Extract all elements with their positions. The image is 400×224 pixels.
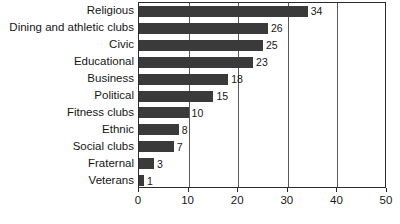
bar	[139, 57, 253, 68]
x-tick-label: 20	[231, 194, 244, 206]
bar	[139, 175, 144, 186]
category-label: Fitness clubs	[0, 107, 134, 118]
bar-value-label: 7	[177, 142, 183, 153]
category-label: Business	[0, 73, 134, 84]
bar	[139, 23, 268, 34]
x-tick-label: 0	[135, 194, 141, 206]
bar	[139, 124, 179, 135]
x-tick-label: 10	[181, 194, 194, 206]
category-label: Fraternal	[0, 158, 134, 169]
bar-value-label: 18	[231, 74, 243, 85]
category-axis: ReligiousDining and athletic clubsCivicE…	[0, 2, 134, 188]
bar-value-label: 26	[271, 23, 283, 34]
category-label: Educational	[0, 56, 134, 67]
x-tick-mark	[138, 188, 139, 192]
bar-chart: ReligiousDining and athletic clubsCivicE…	[0, 0, 400, 224]
gridline-30	[288, 3, 289, 187]
category-label: Dining and athletic clubs	[0, 22, 134, 33]
x-tick-label: 50	[380, 194, 393, 206]
x-tick-mark	[287, 188, 288, 192]
bar-value-label: 25	[266, 40, 278, 51]
bar-value-label: 23	[256, 57, 268, 68]
bar	[139, 74, 228, 85]
category-label: Veterans	[0, 175, 134, 186]
x-tick-label: 30	[280, 194, 293, 206]
category-label: Religious	[0, 5, 134, 16]
category-label: Civic	[0, 39, 134, 50]
bar	[139, 158, 154, 169]
x-tick-label: 40	[330, 194, 343, 206]
gridline-40	[337, 3, 338, 187]
bar-value-label: 8	[182, 125, 188, 136]
plot-area: 342625231815108731	[138, 2, 386, 188]
bar	[139, 107, 189, 118]
category-label: Ethnic	[0, 124, 134, 135]
bar-value-label: 10	[192, 108, 204, 119]
category-label: Social clubs	[0, 141, 134, 152]
bar-value-label: 15	[216, 91, 228, 102]
bar-value-label: 1	[147, 176, 153, 187]
x-tick-mark	[386, 188, 387, 192]
x-tick-mark	[237, 188, 238, 192]
x-axis: 01020304050	[138, 188, 386, 218]
category-label: Political	[0, 90, 134, 101]
x-tick-mark	[188, 188, 189, 192]
bar	[139, 40, 263, 51]
bar	[139, 91, 213, 102]
bar	[139, 6, 308, 17]
bar-value-label: 3	[157, 159, 163, 170]
bar-value-label: 34	[311, 6, 323, 17]
x-tick-mark	[336, 188, 337, 192]
bar	[139, 141, 174, 152]
